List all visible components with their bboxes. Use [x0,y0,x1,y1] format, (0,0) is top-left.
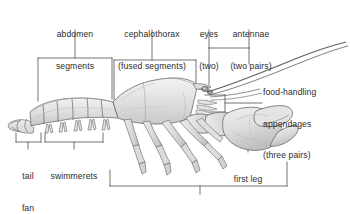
label-swimmerets: swimmerets [51,150,98,203]
crayfish-anatomy-diagram: abdomen segments cephalothorax (fused se… [0,0,350,214]
leader-tail-fan [16,133,41,149]
label-abdomen-segments-line1: abdomen [56,29,94,40]
label-food-handling-line2: appendages [263,119,316,130]
tail-fan-shape [8,119,34,133]
label-cephalothorax-line2: (fused segments) [118,61,186,72]
label-swimmerets-line1: swimmerets [51,171,98,182]
label-eyes-line1: eyes [199,29,219,40]
label-cephalothorax: cephalothorax (fused segments) [118,8,186,92]
label-antennae-line1: antennae [230,29,271,40]
label-abdomen-segments-line2: segments [56,61,94,72]
label-abdomen-segments: abdomen segments [56,8,94,92]
label-tail-fan-line1: tail [22,171,34,182]
label-cephalothorax-line1: cephalothorax [118,29,186,40]
label-tail-fan-line2: fan [22,203,34,214]
label-eyes-line2: (two) [199,61,219,72]
label-first-leg-line1: first leg [234,174,263,185]
label-tail-fan: tail fan [22,150,34,214]
label-food-handling-line1: food-handling [263,87,316,98]
label-food-handling-line3: (three pairs) [263,150,316,161]
label-food-handling-appendages: food-handling appendages (three pairs) [263,66,316,182]
label-eyes: eyes (two) [199,8,219,92]
leader-swimmerets [45,133,103,149]
label-walking-legs: walking legs (five pairs) [154,195,246,214]
